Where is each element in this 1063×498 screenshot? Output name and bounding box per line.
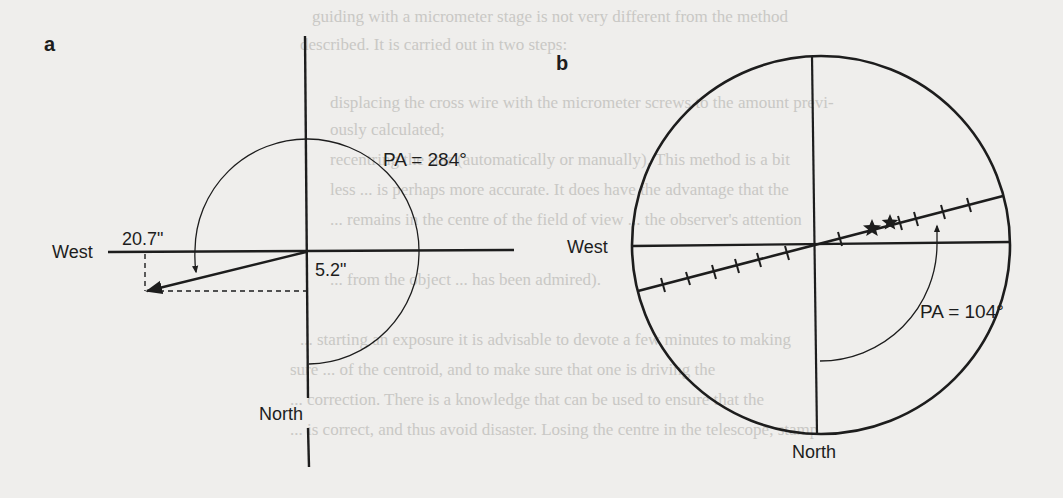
panel-b: b West North xyxy=(556,52,1010,462)
panel-b-letter: b xyxy=(556,52,568,74)
panel-a-ra-offset-label: 20.7" xyxy=(122,229,163,249)
panel-a-dec-offset-label: 5.2" xyxy=(315,260,346,280)
panel-b-stars xyxy=(863,214,898,236)
panel-a-pa-label: PA = 284° xyxy=(383,149,467,170)
position-angle-figure: a West North PA = 284° 20.7" 5.2" b xyxy=(0,0,1063,498)
panel-a-north-label: North xyxy=(259,404,303,424)
panel-a-west-label: West xyxy=(52,242,93,262)
panel-a-letter: a xyxy=(44,33,56,55)
panel-b-north-label: North xyxy=(792,442,836,462)
panel-a-offset-vector xyxy=(147,252,306,291)
panel-b-pa-arc xyxy=(820,226,937,361)
panel-b-pa-label: PA = 104° xyxy=(920,301,1004,322)
panel-a-ns-axis-tail xyxy=(308,428,309,467)
panel-a-ew-axis xyxy=(108,250,514,252)
panel-b-west-label: West xyxy=(567,237,608,257)
star-icon xyxy=(863,219,881,236)
panel-a: a West North PA = 284° 20.7" 5.2" xyxy=(44,33,514,467)
panel-a-ns-axis xyxy=(305,36,308,398)
